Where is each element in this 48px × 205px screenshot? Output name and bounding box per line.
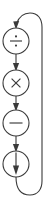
connector-minus-to-output	[13, 136, 19, 153]
node-minus[interactable]	[3, 110, 29, 136]
operator-cycle-diagram: Arithmetic operator cycle	[0, 0, 48, 205]
node-down-arrow[interactable]	[3, 151, 29, 177]
node-divide[interactable]	[3, 28, 29, 54]
connector-multiply-to-minus	[13, 96, 19, 112]
node-multiply[interactable]	[3, 70, 29, 96]
connector-divide-to-multiply	[13, 54, 19, 72]
diagram-canvas	[0, 0, 48, 205]
